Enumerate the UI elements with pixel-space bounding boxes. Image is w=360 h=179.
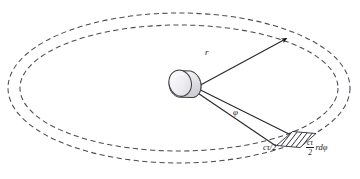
range-vector-line	[201, 39, 287, 86]
range-resolution-label: cτ/2	[263, 143, 276, 152]
range-vector-ray	[201, 39, 287, 86]
azimuth-sector-rays	[197, 89, 294, 146]
sector-ray-lower	[197, 93, 276, 147]
cell-fraction-numerator: cτ	[306, 139, 314, 147]
radar-antenna-cylinder	[166, 67, 201, 99]
cell-fraction-denominator: 2	[307, 148, 313, 156]
radar-resolution-cell-figure: r φ cτ/2 cτ 2 rdφ	[0, 0, 360, 179]
cell-dimension-label: cτ 2 rdφ	[306, 139, 327, 156]
cell-fraction: cτ 2	[306, 139, 314, 156]
azimuth-angle-label: φ	[233, 108, 238, 117]
cell-arc-term: rdφ	[316, 143, 328, 152]
range-vector-label: r	[205, 48, 209, 57]
sector-ray-upper	[199, 89, 295, 137]
